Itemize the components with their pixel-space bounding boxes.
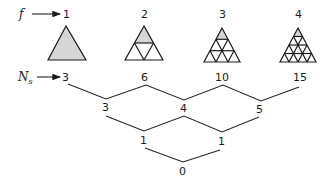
first-difference-1: 3 bbox=[102, 101, 109, 114]
triangle-f1-icon bbox=[48, 26, 86, 60]
difference-connectors-row1 bbox=[68, 84, 299, 101]
ns-label: Ns bbox=[17, 70, 33, 86]
frequency-label-2: 2 bbox=[141, 8, 148, 21]
frequency-label-4: 4 bbox=[295, 8, 302, 21]
frequency-label-1: 1 bbox=[63, 8, 70, 21]
ns-value-1: 3 bbox=[62, 71, 69, 84]
second-difference-2: 1 bbox=[218, 135, 225, 148]
ns-value-4: 15 bbox=[293, 71, 307, 84]
triangle-f3-icon bbox=[204, 28, 240, 62]
ns-value-3: 10 bbox=[215, 71, 229, 84]
second-difference-1: 1 bbox=[140, 134, 147, 147]
frequency-label-3: 3 bbox=[219, 8, 226, 21]
third-difference: 0 bbox=[179, 165, 186, 178]
difference-connectors-row3 bbox=[145, 148, 220, 162]
triangle-f4-icon bbox=[280, 28, 316, 62]
triangle-f2-icon bbox=[125, 26, 163, 60]
difference-connectors-row2 bbox=[106, 116, 259, 132]
first-difference-3: 5 bbox=[256, 103, 263, 116]
f-label: f bbox=[18, 7, 26, 21]
ns-value-2: 6 bbox=[141, 71, 148, 84]
frequency-difference-diagram: f 1 2 3 4 Ns bbox=[0, 0, 334, 185]
diagram-canvas: f 1 2 3 4 Ns bbox=[0, 0, 334, 185]
first-difference-2: 4 bbox=[180, 102, 187, 115]
